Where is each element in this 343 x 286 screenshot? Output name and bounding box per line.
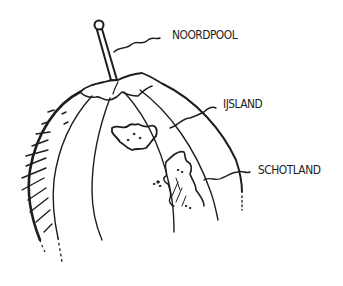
globe-outline [29,84,242,254]
meridians [53,90,218,262]
ijsland-leader [170,107,216,128]
label-ijsland: IJSLAND [223,96,262,111]
schotland-leader [204,171,250,180]
globe-illustration [0,0,343,286]
scotland-shape [153,152,204,209]
iceland-shape [112,124,157,150]
north-pole-rod [95,21,119,81]
globe-diagram: NOORDPOOL IJSLAND SCHOTLAND [0,0,343,286]
label-schotland: SCHOTLAND [258,162,320,177]
noordpool-leader [114,38,160,52]
label-noordpool: NOORDPOOL [172,27,237,42]
